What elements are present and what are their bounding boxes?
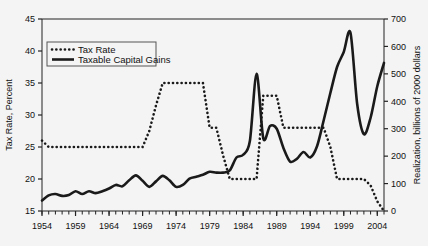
tick-label: 45 [25, 14, 35, 24]
dual-axis-line-chart: 1954195919641969197419791984198919941999… [0, 0, 428, 246]
tick-label: 0 [391, 206, 396, 216]
tick-label: 100 [391, 179, 406, 189]
x-axis-tick-labels: 1954195919641969197419791984198919941999… [32, 221, 387, 231]
tick-label: 1974 [166, 221, 186, 231]
tick-label: 35 [25, 78, 35, 88]
tick-label: 1969 [133, 221, 153, 231]
tick-label: 1964 [99, 221, 119, 231]
legend-label-taxable-capital-gains: Taxable Capital Gains [78, 54, 171, 65]
tick-label: 30 [25, 110, 35, 120]
chart-background [0, 0, 428, 246]
tick-label: 1994 [300, 221, 320, 231]
tick-label: 1984 [233, 221, 253, 231]
chart-legend: Tax Rate Taxable Capital Gains [47, 42, 171, 66]
tick-label: 15 [25, 206, 35, 216]
chart-container: 1954195919641969197419791984198919941999… [0, 0, 428, 246]
tick-label: 700 [391, 14, 406, 24]
tick-label: 1979 [200, 221, 220, 231]
tick-label: 600 [391, 42, 406, 52]
y-axis-right-title: Realization, billions of 2000 dollars [412, 45, 422, 184]
tick-label: 1989 [267, 221, 287, 231]
tick-label: 1999 [334, 221, 354, 231]
tick-label: 2004 [367, 221, 387, 231]
tick-label: 1954 [32, 221, 52, 231]
tick-label: 200 [391, 151, 406, 161]
tick-label: 1959 [66, 221, 86, 231]
y-axis-left-title: Tax Rate, Percent [4, 79, 14, 151]
tick-label: 300 [391, 124, 406, 134]
tick-label: 500 [391, 69, 406, 79]
tick-label: 400 [391, 97, 406, 107]
tick-label: 25 [25, 142, 35, 152]
tick-label: 40 [25, 46, 35, 56]
tick-label: 20 [25, 174, 35, 184]
